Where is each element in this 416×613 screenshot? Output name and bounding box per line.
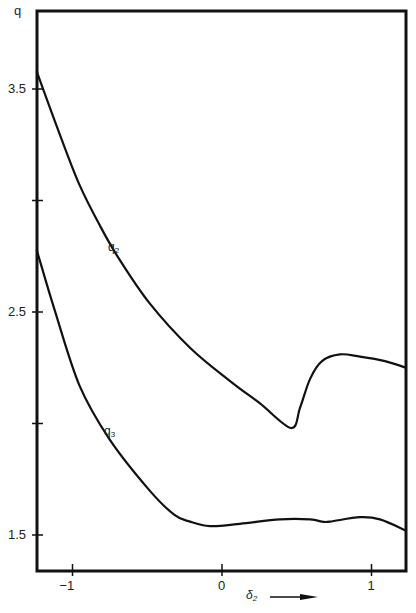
chart-canvas <box>0 0 416 613</box>
y-tick-label: 1.5 <box>8 527 26 542</box>
x-tick-label: −1 <box>60 578 75 593</box>
axes-box <box>37 11 406 571</box>
y-tick-label: 3.5 <box>8 81 26 96</box>
x-axis-title-sub: 2 <box>253 594 257 603</box>
y-tick-label: 2.5 <box>8 304 26 319</box>
curve-label-q3: q3 <box>104 424 115 439</box>
x-axis-title-main: δ <box>246 588 253 602</box>
x-tick-label: 1 <box>368 578 375 593</box>
y-axis-title: q <box>14 3 21 18</box>
curves <box>37 71 406 530</box>
x-axis-direction-arrow <box>270 594 318 600</box>
x-tick-label: 0 <box>218 578 225 593</box>
axis-ticks <box>32 89 372 576</box>
curve-q3 <box>37 250 406 531</box>
plot-frame <box>37 11 406 571</box>
curve-label-q2: q2 <box>108 240 119 255</box>
curve-q2 <box>37 71 406 428</box>
x-axis-title: δ2 <box>246 588 257 603</box>
